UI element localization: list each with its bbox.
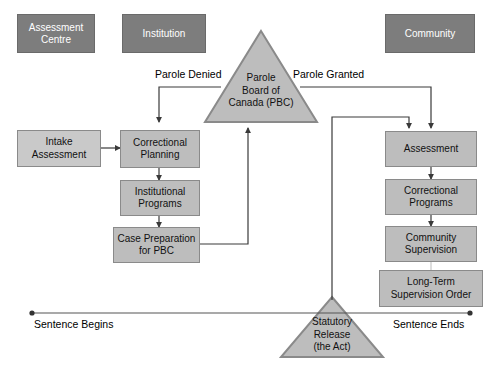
header-box-assessment-centre: Assessment Centre [17, 14, 95, 53]
process-box-institutional-programs: Institutional Programs [120, 180, 200, 216]
process-box-long-term-supervision-order: Long-Term Supervision Order [379, 270, 483, 307]
correctional-process-diagram: Assessment Centre Institution Community … [0, 0, 492, 377]
process-box-assessment: Assessment [385, 131, 477, 167]
community-supervision-line2: Supervision [405, 244, 457, 255]
intake-assessment-line2: Assessment [32, 149, 86, 160]
connector-parole-granted [300, 87, 431, 128]
parole-board-label-line1: Parole [247, 72, 276, 83]
institutional-programs-line1: Institutional [135, 186, 186, 197]
connector-caseprep-to-parole-board [200, 128, 248, 244]
header-label-assessment-centre-line2: Centre [41, 34, 71, 45]
long-term-supervision-order-line2: Supervision Order [391, 289, 472, 300]
header-label-community: Community [405, 28, 456, 40]
institutional-programs-line2: Programs [138, 198, 181, 209]
header-box-institution: Institution [122, 14, 206, 53]
correctional-planning-line1: Correctional [133, 137, 187, 148]
parole-board-label-line3: Canada (PBC) [228, 97, 293, 108]
intake-assessment-line1: Intake [45, 136, 72, 147]
case-preparation-line1: Case Preparation [118, 233, 196, 244]
process-box-case-preparation: Case Preparation for PBC [113, 227, 200, 263]
header-box-community: Community [385, 14, 475, 53]
header-label-institution: Institution [143, 28, 186, 40]
long-term-supervision-order-line1: Long-Term [407, 276, 455, 287]
timeline-label-sentence-ends: Sentence Ends [393, 318, 464, 330]
process-box-community-supervision: Community Supervision [385, 226, 477, 262]
case-preparation-line2: for PBC [139, 245, 174, 256]
statutory-release-label: Statutory Release (the Act) [281, 316, 383, 354]
statutory-release-label-line3: (the Act) [313, 341, 350, 352]
community-supervision-line1: Community [406, 232, 457, 243]
correctional-planning-line2: Planning [141, 149, 180, 160]
correctional-programs-line2: Programs [409, 197, 452, 208]
correctional-programs-line1: Correctional [404, 185, 458, 196]
parole-board-label-line2: Board of [242, 85, 280, 96]
process-box-correctional-planning: Correctional Planning [120, 130, 200, 168]
process-box-correctional-programs: Correctional Programs [385, 179, 477, 215]
statutory-release-label-line2: Release [314, 329, 351, 340]
edge-label-parole-denied: Parole Denied [155, 68, 222, 80]
process-box-intake-assessment: Intake Assessment [17, 130, 101, 167]
sentence-begins-endpoint [29, 310, 34, 315]
statutory-release-label-line1: Statutory [312, 316, 352, 327]
sentence-ends-endpoint [467, 310, 472, 315]
timeline-label-sentence-begins: Sentence Begins [34, 318, 113, 330]
edge-label-parole-granted: Parole Granted [293, 68, 364, 80]
header-label-assessment-centre-line1: Assessment [29, 22, 83, 33]
assessment-line1: Assessment [404, 143, 458, 156]
